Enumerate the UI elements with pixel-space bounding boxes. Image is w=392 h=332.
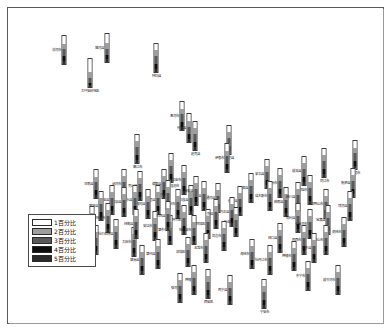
percentile-barstack xyxy=(204,233,209,263)
barstack-segment-3 xyxy=(115,232,118,239)
place-label: 林口县 xyxy=(268,236,277,240)
place-marker[interactable]: 绥化市 xyxy=(176,189,181,219)
barstack-segment-3 xyxy=(235,220,238,227)
percentile-barstack xyxy=(342,217,347,247)
place-marker[interactable]: 桦南县 xyxy=(284,187,289,217)
barstack-segment-3 xyxy=(133,240,136,247)
place-marker[interactable]: 西安区 xyxy=(206,269,211,299)
barstack-segment-3 xyxy=(263,292,266,299)
place-label: 塔河县 xyxy=(95,46,104,50)
legend-row: 3百分比 xyxy=(32,236,92,245)
legend-label: 3百分比 xyxy=(54,237,76,244)
place-marker[interactable]: 穆棱 xyxy=(192,265,197,295)
percentile-barstack xyxy=(88,58,93,88)
place-marker[interactable]: 虎林市 xyxy=(342,217,347,247)
place-marker[interactable]: 东宁市 xyxy=(306,261,311,291)
place-marker[interactable]: 绥滨县 xyxy=(302,156,307,186)
place-marker[interactable]: 齐齐哈尔市 xyxy=(106,203,111,233)
place-label: 东宁市 xyxy=(296,274,305,278)
place-marker[interactable]: 林甸县 xyxy=(134,209,139,239)
barstack-segment-5 xyxy=(139,197,142,200)
place-marker[interactable]: 伊春市 xyxy=(225,143,230,173)
place-marker[interactable]: 穆棱市 xyxy=(292,241,297,271)
legend-row: 4百分比 xyxy=(32,245,92,254)
place-marker[interactable]: 密山市 xyxy=(324,225,329,255)
place-marker[interactable]: 嫩江市 xyxy=(135,134,140,164)
place-marker[interactable]: 柴河 xyxy=(178,273,183,303)
place-marker[interactable]: 杜尔伯特县 xyxy=(114,219,119,249)
place-marker[interactable]: 拜泉县 xyxy=(122,187,127,217)
place-marker[interactable]: 佳木斯市 xyxy=(268,181,273,211)
place-marker[interactable]: 肇州县 xyxy=(156,239,161,269)
place-label: 方正县 xyxy=(220,210,229,214)
place-marker[interactable]: 富锦市 xyxy=(308,175,313,205)
place-marker[interactable]: 庆安县 xyxy=(194,176,199,206)
barstack-segment-5 xyxy=(194,147,197,150)
barstack-segment-5 xyxy=(190,211,193,214)
percentile-barstack xyxy=(166,201,171,231)
percentile-barstack xyxy=(154,43,159,73)
barstack-segment-5 xyxy=(195,202,198,205)
barstack-segment-3 xyxy=(207,282,210,289)
barstack-segment-5 xyxy=(269,207,272,210)
percentile-barstack xyxy=(156,239,161,269)
place-marker[interactable]: 鹤岗市 xyxy=(278,168,283,198)
barstack-segment-5 xyxy=(136,160,139,163)
place-marker[interactable]: 饶河县 xyxy=(348,191,353,221)
place-marker[interactable]: 双城区 xyxy=(186,237,191,267)
place-marker[interactable]: 汤原县 xyxy=(249,173,254,203)
place-label: 绥芬河市 xyxy=(323,278,335,282)
place-marker[interactable]: 木兰县 xyxy=(202,181,207,211)
percentile-barstack xyxy=(353,140,358,170)
barstack-segment-3 xyxy=(307,274,310,281)
percentile-barstack xyxy=(284,187,289,217)
place-marker[interactable]: 宁安市 xyxy=(262,279,267,309)
place-marker[interactable]: 青冈县 xyxy=(146,189,151,219)
percentile-barstack xyxy=(228,275,233,305)
place-label: 尚志市 xyxy=(212,234,221,238)
place-marker[interactable]: 绥芬河市 xyxy=(336,265,341,295)
percentile-barstack xyxy=(306,261,311,291)
place-marker[interactable]: 尚志市 xyxy=(222,221,227,251)
place-marker[interactable]: 五常市 xyxy=(204,233,209,263)
barstack-segment-3 xyxy=(107,216,110,223)
place-label: 哈尔滨市 xyxy=(179,228,191,232)
place-marker[interactable]: 同江市 xyxy=(322,148,327,178)
barstack-segment-3 xyxy=(177,202,180,209)
barstack-segment-5 xyxy=(269,271,272,274)
map-canvas[interactable]: 漠河市塔河县大兴安岭地区呼玛县黑河市嫩江市逊克县孙吴县五大连池市嘉荫县伊春市北安… xyxy=(8,8,385,325)
place-marker[interactable]: 海林市 xyxy=(250,239,255,269)
barstack-segment-3 xyxy=(279,236,282,243)
barstack-segment-5 xyxy=(307,287,310,290)
place-label: 漠河市 xyxy=(52,48,61,52)
place-marker[interactable]: 鸡宁县 xyxy=(228,275,233,305)
place-marker[interactable]: 勃利县 xyxy=(296,203,301,233)
place-marker[interactable]: 塔河县 xyxy=(105,33,110,63)
percentile-barstack xyxy=(192,215,197,245)
place-marker[interactable]: 呼玛县 xyxy=(154,43,159,73)
barstack-segment-3 xyxy=(297,195,300,202)
place-marker[interactable]: 延寿县 xyxy=(234,207,239,237)
place-marker[interactable]: 逊克县 xyxy=(193,121,198,151)
place-marker[interactable]: 克山县 xyxy=(138,171,143,201)
place-marker[interactable]: 孙吴县 xyxy=(187,113,192,143)
legend-label: 4百分比 xyxy=(54,246,76,253)
place-label: 西安区 xyxy=(204,300,213,304)
place-marker[interactable]: 鸡西市 xyxy=(302,225,307,255)
place-marker[interactable]: 哈尔滨市 xyxy=(192,215,197,245)
place-marker[interactable]: 鸡东县 xyxy=(312,233,317,263)
place-marker[interactable]: 肇源县 xyxy=(140,245,145,275)
percentile-barstack xyxy=(134,209,139,239)
barstack-segment-5 xyxy=(349,217,352,220)
legend-swatch-4 xyxy=(32,246,52,253)
place-marker[interactable]: 抚远市 xyxy=(353,140,358,170)
place-marker[interactable]: 牡丹江市 xyxy=(268,245,273,275)
place-marker[interactable]: 漠河市 xyxy=(62,35,67,65)
place-marker[interactable]: 兰西县 xyxy=(166,201,171,231)
place-marker[interactable]: 大兴安岭地区 xyxy=(88,58,93,88)
barstack-segment-5 xyxy=(250,199,253,202)
place-marker[interactable]: 林口县 xyxy=(278,223,283,253)
place-marker[interactable]: 宾县 xyxy=(214,199,219,229)
barstack-segment-5 xyxy=(297,229,300,232)
percentile-barstack xyxy=(292,241,297,271)
